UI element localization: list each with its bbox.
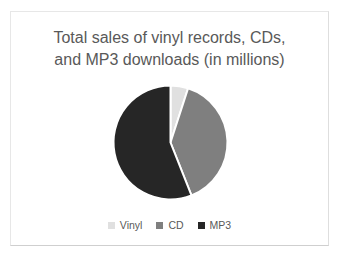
legend-label-cd: CD: [168, 219, 183, 231]
legend-label-vinyl: Vinyl: [120, 219, 143, 231]
chart-title: Total sales of vinyl records, CDs, and M…: [11, 27, 328, 71]
chart-frame: Total sales of vinyl records, CDs, and M…: [10, 11, 329, 246]
pie-plot-area: [108, 80, 233, 205]
legend-item-vinyl: Vinyl: [108, 219, 143, 231]
legend-item-mp3: MP3: [198, 219, 232, 231]
legend-marker-vinyl-icon: [108, 222, 115, 229]
legend-label-mp3: MP3: [210, 219, 232, 231]
chart-title-line-1: Total sales of vinyl records, CDs,: [11, 27, 328, 49]
pie-chart: [108, 80, 233, 205]
page: { "frame": { "background": "#ffffff", "b…: [0, 0, 342, 256]
legend: Vinyl CD MP3: [11, 219, 328, 231]
legend-marker-mp3-icon: [198, 222, 205, 229]
chart-title-line-2: and MP3 downloads (in millions): [11, 49, 328, 71]
legend-marker-cd-icon: [156, 222, 163, 229]
legend-item-cd: CD: [156, 219, 183, 231]
